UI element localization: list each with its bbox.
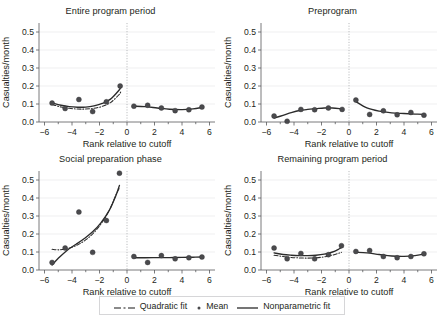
- mean-data-point: [367, 248, 372, 253]
- dash-dot-line-icon: [114, 303, 136, 309]
- mean-data-point: [272, 246, 277, 251]
- y-tick-label: 0.3: [22, 211, 34, 221]
- chart-panel-remaining-program-period: Remaining program period 0.00.10.20.30.4…: [222, 152, 443, 300]
- y-tick-label: 0.5: [244, 175, 256, 185]
- y-tick-label: 0.4: [244, 193, 256, 203]
- y-tick-label: 0.1: [244, 99, 256, 109]
- chart-legend: Quadratic fit Mean Nonparametric fit: [99, 296, 345, 315]
- plot-area: 0.00.10.20.30.40.5−6−4−20246Rank relativ…: [0, 17, 221, 152]
- nonparametric-fit-line: [52, 185, 119, 265]
- mean-data-point: [186, 107, 191, 112]
- legend-label: Mean: [206, 301, 228, 311]
- mean-data-point: [326, 252, 331, 257]
- mean-data-point: [90, 109, 95, 114]
- mean-data-point: [395, 112, 400, 117]
- x-tick-label: −2: [95, 275, 105, 285]
- x-tick-label: 0: [347, 275, 352, 285]
- mean-data-point: [353, 249, 358, 254]
- x-tick-label: 0: [347, 127, 352, 137]
- y-tick-label: 0.0: [22, 117, 34, 127]
- y-axis-title: Casualties/month: [1, 185, 11, 256]
- y-tick-label: 0.3: [244, 63, 256, 73]
- chart-panel-entire-program-period: Entire program period 0.00.10.20.30.40.5…: [0, 4, 221, 152]
- y-axis-title: Casualties/month: [1, 37, 11, 108]
- mean-data-point: [104, 99, 109, 104]
- y-tick-label: 0.2: [22, 229, 34, 239]
- mean-data-point: [90, 250, 95, 255]
- mean-data-point: [340, 107, 345, 112]
- y-tick-label: 0.4: [22, 45, 34, 55]
- mean-data-point: [104, 218, 109, 223]
- x-tick-label: −2: [317, 275, 327, 285]
- y-tick-label: 0.2: [244, 229, 256, 239]
- mean-data-point: [353, 98, 358, 103]
- x-tick-label: 2: [152, 275, 157, 285]
- mean-data-point: [173, 108, 178, 113]
- mean-data-point: [199, 105, 204, 110]
- x-tick-label: 4: [402, 275, 407, 285]
- mean-data-point: [159, 105, 164, 110]
- y-tick-label: 0.5: [244, 27, 256, 37]
- y-tick-label: 0.4: [244, 45, 256, 55]
- legend-item-quadratic-fit: Quadratic fit: [114, 301, 187, 311]
- y-tick-label: 0.2: [22, 81, 34, 91]
- x-tick-label: 6: [429, 127, 434, 137]
- y-tick-label: 0.1: [22, 247, 34, 257]
- y-axis-title: Casualties/month: [223, 185, 233, 256]
- panel-title: Preprogram: [222, 6, 443, 17]
- mean-data-point: [159, 253, 164, 258]
- mean-data-point: [298, 107, 303, 112]
- x-tick-label: 6: [429, 275, 434, 285]
- y-tick-label: 0.0: [244, 117, 256, 127]
- chart-panel-social-preparation-phase: Social preparation phase 0.00.10.20.30.4…: [0, 152, 221, 300]
- x-tick-label: −6: [262, 275, 272, 285]
- nonparametric-fit-line: [134, 106, 202, 109]
- mean-data-point: [395, 255, 400, 260]
- mean-data-point: [285, 256, 290, 261]
- mean-data-point: [367, 112, 372, 117]
- solid-line-icon: [237, 303, 259, 309]
- x-tick-label: −6: [262, 127, 272, 137]
- panel-title: Remaining program period: [222, 154, 443, 165]
- plot-area: 0.00.10.20.30.40.5−6−4−20246Rank relativ…: [222, 165, 443, 300]
- quadratic-fit-line: [52, 188, 119, 250]
- x-axis-title: Rank relative to cutoff: [305, 139, 394, 149]
- x-tick-label: 4: [180, 275, 185, 285]
- mean-data-point: [145, 103, 150, 108]
- chart-panel-preprogram: Preprogram 0.00.10.20.30.40.5−6−4−20246R…: [222, 4, 443, 152]
- x-tick-label: 6: [207, 275, 212, 285]
- mean-data-point: [312, 256, 317, 261]
- mean-data-point: [50, 101, 55, 106]
- mean-data-point: [173, 256, 178, 261]
- y-tick-label: 0.2: [244, 81, 256, 91]
- mean-data-point: [145, 260, 150, 265]
- mean-data-point: [381, 108, 386, 113]
- x-tick-label: −4: [67, 127, 77, 137]
- plot-area: 0.00.10.20.30.40.5−6−4−20246Rank relativ…: [0, 165, 221, 300]
- mean-data-point: [408, 110, 413, 115]
- figure-panel-grid: Entire program period 0.00.10.20.30.40.5…: [0, 0, 443, 322]
- y-tick-label: 0.1: [244, 247, 256, 257]
- mean-data-point: [131, 104, 136, 109]
- mean-data-point: [421, 251, 426, 256]
- x-tick-label: −4: [67, 275, 77, 285]
- mean-data-point: [50, 260, 55, 265]
- legend-label: Nonparametric fit: [263, 301, 330, 311]
- legend-item-nonparametric-fit: Nonparametric fit: [237, 301, 330, 311]
- mean-data-point: [421, 113, 426, 118]
- y-tick-label: 0.4: [22, 193, 34, 203]
- mean-data-point: [63, 106, 68, 111]
- x-tick-label: 2: [374, 127, 379, 137]
- legend-item-mean: Mean: [196, 301, 228, 311]
- x-tick-label: 6: [207, 127, 212, 137]
- x-tick-label: −4: [289, 127, 299, 137]
- x-tick-label: 4: [402, 127, 407, 137]
- mean-data-point: [272, 114, 277, 119]
- x-tick-label: −2: [317, 127, 327, 137]
- x-tick-label: −6: [40, 275, 50, 285]
- panel-title: Entire program period: [0, 6, 221, 17]
- nonparametric-fit-line: [274, 248, 341, 256]
- panel-title: Social preparation phase: [0, 154, 221, 165]
- legend-label: Quadratic fit: [140, 301, 187, 311]
- y-axis-title: Casualties/month: [223, 37, 233, 108]
